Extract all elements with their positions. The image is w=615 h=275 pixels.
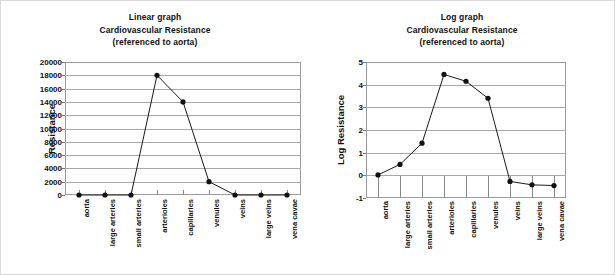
y-axis-tick-label: 6000 (44, 151, 62, 160)
x-axis-tick-label: vena cavae (557, 201, 566, 241)
x-axis-tick-label-text: capillaries (186, 199, 195, 236)
x-axis-tick-mark (157, 190, 158, 195)
y-axis-tick-mark (363, 153, 366, 154)
chart-title-line-3: (referenced to aorta) (308, 36, 615, 49)
x-axis-tick-mark (131, 190, 132, 195)
x-axis-tick-label-text: veins (513, 201, 522, 220)
chart-title-line-2: Cardiovascular Resistance (1, 24, 309, 37)
gridline (366, 153, 566, 154)
x-axis-tick-mark (209, 190, 210, 195)
x-axis-tick-label-text: large arteries (108, 199, 117, 246)
y-axis-tick-mark (62, 168, 65, 169)
y-axis-tick-label: 4000 (44, 164, 62, 173)
x-axis-tick-mark (466, 176, 467, 198)
x-axis-tick-label: aorta (381, 201, 390, 219)
x-axis-tick-label-text: arterioles (160, 199, 169, 233)
y-axis-tick-mark (62, 62, 65, 63)
x-axis-tick-label: capillaries (186, 199, 195, 236)
x-axis-tick-label: veins (238, 199, 247, 218)
x-axis-tick-label: arterioles (447, 201, 456, 235)
x-axis-tick-mark (444, 176, 445, 198)
x-axis-tick-label: arterioles (160, 199, 169, 233)
y-axis-tick-label: 20000 (40, 58, 62, 67)
x-axis-tick-label-text: veins (238, 199, 247, 218)
x-axis-tick-label: small arteries (425, 201, 434, 249)
y-axis-tick-mark (62, 155, 65, 156)
gridline (65, 115, 301, 116)
x-axis-tick-mark (183, 190, 184, 195)
chart-panel-log: Log graph Cardiovascular Resistance (ref… (308, 1, 615, 275)
y-axis-tick-mark (62, 75, 65, 76)
chart-title-line-3: (referenced to aorta) (1, 36, 309, 49)
x-axis-tick-mark (287, 190, 288, 195)
gridline (65, 155, 301, 156)
y-axis-label-log: Log Resistance (335, 95, 346, 165)
y-axis-tick-label: 12000 (40, 111, 62, 120)
y-axis-tick-mark (62, 89, 65, 90)
gridline (366, 130, 566, 131)
x-axis-tick-label-text: large veins (264, 199, 273, 238)
x-axis-tick-label-text: small arteries (134, 199, 143, 247)
gridline (366, 85, 566, 86)
y-axis-tick-mark (363, 85, 366, 86)
chart-title-line-2: Cardiovascular Resistance (308, 24, 615, 37)
x-axis-tick-label-text: vena cavae (557, 201, 566, 241)
x-axis-tick-mark (488, 176, 489, 198)
gridline (65, 75, 301, 76)
x-axis-tick-mark (79, 190, 80, 195)
y-axis-tick-mark (363, 198, 366, 199)
x-axis-tick-label: vena cavae (290, 199, 299, 239)
chart-title-line-1: Linear graph (1, 11, 309, 24)
y-axis-tick-mark (62, 129, 65, 130)
x-axis-tick-label: veins (513, 201, 522, 220)
gridline (65, 129, 301, 130)
gridline (65, 168, 301, 169)
y-axis-tick-mark (62, 102, 65, 103)
x-axis-tick-label-text: vena cavae (290, 199, 299, 239)
x-axis-tick-mark (378, 176, 379, 198)
y-axis-tick-label: 16000 (40, 84, 62, 93)
x-axis-tick-label-text: large arteries (403, 201, 412, 248)
x-axis-tick-label: venules (491, 201, 500, 229)
x-axis-tick-label: large veins (535, 201, 544, 240)
x-axis-tick-label: large veins (264, 199, 273, 238)
x-axis-tick-label-text: venules (212, 199, 221, 227)
gridline (65, 182, 301, 183)
x-axis-tick-label-text: capillaries (469, 201, 478, 238)
x-axis-tick-label-text: small arteries (425, 201, 434, 249)
chart-title-linear: Linear graph Cardiovascular Resistance (… (1, 11, 309, 49)
y-axis-tick-mark (363, 107, 366, 108)
x-axis-tick-label-text: venules (491, 201, 500, 229)
x-axis-tick-mark (510, 176, 511, 198)
plot-area-log: Log Resistance 543210-1 aortalarge arter… (366, 62, 566, 198)
chart-panel-linear: Linear graph Cardiovascular Resistance (… (1, 1, 309, 275)
y-axis-tick-mark (62, 142, 65, 143)
x-axis-tick-label: large arteries (108, 199, 117, 246)
gridline (65, 142, 301, 143)
y-axis-tick-mark (62, 195, 65, 196)
y-axis-tick-label: 10000 (40, 124, 62, 133)
y-axis-tick-label: 2000 (44, 177, 62, 186)
x-axis-tick-label: venules (212, 199, 221, 227)
x-axis-tick-label-text: aorta (82, 199, 91, 217)
y-axis-tick-label: 8000 (44, 137, 62, 146)
gridline (65, 89, 301, 90)
plot-area-linear: Resistance 20000180001600014000120001000… (65, 62, 301, 195)
y-axis-tick-label: -1 (356, 194, 363, 203)
x-axis-tick-mark (105, 190, 106, 195)
figure-canvas: Linear graph Cardiovascular Resistance (… (0, 0, 615, 275)
y-axis-tick-mark (62, 182, 65, 183)
y-axis-tick-mark (363, 130, 366, 131)
x-axis-tick-mark (422, 176, 423, 198)
x-axis-tick-label-text: arterioles (447, 201, 456, 235)
chart-title-log: Log graph Cardiovascular Resistance (ref… (308, 11, 615, 49)
x-axis-tick-label-text: aorta (381, 201, 390, 219)
chart-title-line-1: Log graph (308, 11, 615, 24)
y-axis-tick-label: 14000 (40, 97, 62, 106)
y-axis-tick-mark (363, 62, 366, 63)
y-axis-tick-mark (62, 115, 65, 116)
gridline (65, 102, 301, 103)
x-axis-tick-label: large arteries (403, 201, 412, 248)
x-axis-tick-mark (400, 176, 401, 198)
gridline (366, 107, 566, 108)
